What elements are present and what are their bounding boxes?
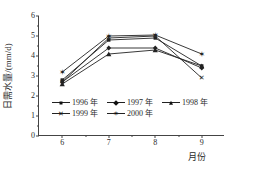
legend-item-1999年[interactable]: ✕1999 年 xyxy=(52,108,98,119)
legend-marker-icon: ✕ xyxy=(52,109,70,118)
series-line xyxy=(62,36,202,82)
legend-label: 1998 年 xyxy=(182,97,208,108)
data-point: ✶ xyxy=(59,68,66,77)
series-2 xyxy=(60,46,204,85)
legend-marker-icon: ✶ xyxy=(107,109,125,118)
series-4: ✕✕✕✕ xyxy=(59,32,204,86)
legend-row: ✕1999 年✶2000 年 xyxy=(52,108,252,119)
data-point: ✕ xyxy=(199,74,205,82)
legend-row: 1996 年1997 年1998 年 xyxy=(52,97,252,108)
legend-label: 1999 年 xyxy=(72,108,98,119)
legend-item-2000年[interactable]: ✶2000 年 xyxy=(107,108,153,119)
chart-legend: 1996 年1997 年1998 年✕1999 年✶2000 年 xyxy=(52,97,252,119)
legend-item-1998年[interactable]: 1998 年 xyxy=(162,97,208,108)
legend-label: 2000 年 xyxy=(127,108,153,119)
data-point: ✶ xyxy=(152,31,159,40)
legend-item-1997年[interactable]: 1997 年 xyxy=(107,97,153,108)
data-point: ✶ xyxy=(105,32,112,41)
legend-marker-icon xyxy=(107,98,125,107)
legend-label: 1996 年 xyxy=(72,97,98,108)
y-axis-label: 日需水量/(mm/d) xyxy=(2,16,14,136)
data-point: ✕ xyxy=(59,78,65,86)
x-axis-label: 月份 xyxy=(188,152,206,162)
legend-marker-icon xyxy=(162,98,180,107)
legend-item-1996年[interactable]: 1996 年 xyxy=(52,97,98,108)
legend-marker-icon xyxy=(52,98,70,107)
data-point: ✶ xyxy=(198,50,205,59)
chart-container: 日需水量/(mm/d) 月份 0123456 6789 ✕✕✕✕✶✶✶✶ 199… xyxy=(0,0,265,171)
legend-label: 1997 年 xyxy=(127,97,153,108)
series-3 xyxy=(60,47,205,86)
